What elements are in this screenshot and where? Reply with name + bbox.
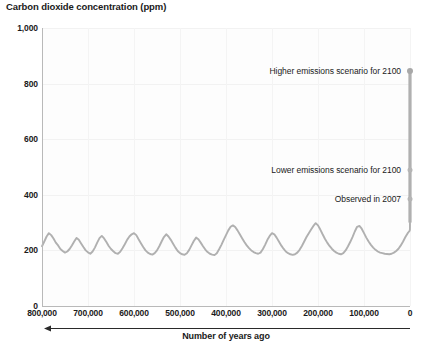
annotation-label: Lower emissions scenario for 2100 [271,165,401,175]
co2-record-line [42,223,410,256]
y-axis-line [42,28,43,306]
x-axis-tick-label: 300,000 [257,308,286,318]
x-axis-title: Number of years ago [42,331,410,341]
x-axis-tick-label: 800,000 [27,308,56,318]
annotation-label: Higher emissions scenario for 2100 [269,66,401,76]
annotation-marker-dot [408,167,413,172]
x-axis-line [42,306,410,307]
x-axis-tick-label: 0 [408,308,413,318]
annotation-marker-dot [408,196,413,201]
y-axis-tick-label: 400 [24,190,38,200]
annotation-label: Observed in 2007 [335,194,401,204]
y-axis-tick-label: 800 [24,79,38,89]
chart-title: Carbon dioxide concentration (ppm) [6,1,166,12]
x-axis-tick-label: 500,000 [165,308,194,318]
x-axis-tick-label: 100,000 [349,308,378,318]
y-axis-tick-label: 1,000 [17,23,38,33]
co2-concentration-chart: Carbon dioxide concentration (ppm) 02004… [0,0,427,350]
x-axis-tick-label: 400,000 [211,308,240,318]
x-axis-tick-label: 200,000 [303,308,332,318]
x-axis-tick-label: 600,000 [119,308,148,318]
x-axis-tick-label: 700,000 [73,308,102,318]
y-axis-tick-label: 200 [24,245,38,255]
annotation-marker-dot [407,68,413,74]
y-axis-tick-label: 600 [24,134,38,144]
